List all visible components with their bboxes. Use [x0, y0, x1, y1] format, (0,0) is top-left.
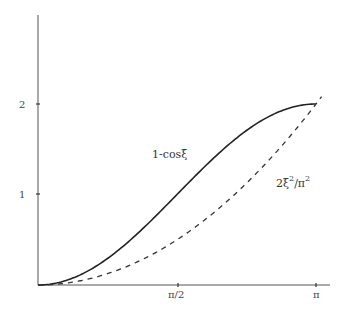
y-tick-label-1: 1 — [19, 189, 25, 200]
label-1-minus-cos: 1-cosξ — [152, 148, 187, 161]
label2-base: 2ξ — [276, 177, 289, 190]
chart: 1 2 π/2 π 1-cosξ 2ξ2/π2 — [0, 0, 347, 313]
y-tick-label-2: 2 — [19, 99, 25, 110]
x-tick-label-pi: π — [313, 289, 320, 300]
label-2xi2-over-pi2: 2ξ2/π2 — [276, 174, 310, 190]
x-tick-label-pi-half: π/2 — [168, 289, 184, 300]
label2-mid: /π — [294, 177, 305, 190]
curve-1-minus-cos — [38, 104, 316, 285]
label2-sup2: 2 — [305, 174, 310, 183]
